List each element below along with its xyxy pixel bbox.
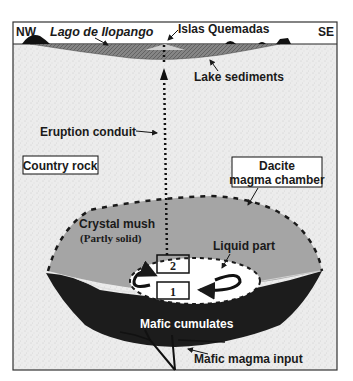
conduit-label: Eruption conduit [40, 125, 136, 139]
mafic-input-label: Mafic magma input [194, 352, 303, 366]
mush-label-line2: (Partly solid) [80, 232, 142, 245]
box-1-label: 1 [170, 285, 176, 299]
chamber-label-line2: magma chamber [229, 173, 325, 187]
mush-label-line1: Crystal mush [79, 217, 155, 231]
cumulates-label: Mafic cumulates [140, 317, 234, 331]
country-rock-label: Country rock [23, 159, 98, 173]
lake-label: Lago de Ilopango [50, 25, 154, 39]
ilopango-magma-chamber-diagram: 2 1 NW SE Lago de Ilopango Islas Quemada… [0, 0, 353, 381]
box-2-label: 2 [170, 259, 176, 273]
direction-nw: NW [16, 25, 37, 39]
direction-se: SE [318, 25, 334, 39]
islands-label: Islas Quemadas [178, 22, 270, 36]
liquid-label: Liquid part [213, 239, 275, 253]
chamber-label-line1: Dacite [259, 159, 295, 173]
sediments-label: Lake sediments [194, 70, 284, 84]
